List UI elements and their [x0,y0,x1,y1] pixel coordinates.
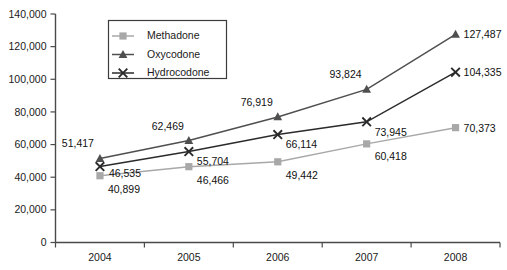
y-tick-label: 100,000 [9,73,47,85]
data-point-marker [362,85,371,93]
data-point-label: 40,899 [108,183,140,195]
data-point-label: 55,704 [197,155,229,167]
y-tick-label: 60,000 [14,138,46,150]
data-point-label: 62,469 [152,120,184,132]
y-tick-label: 120,000 [9,40,47,52]
x-axis-ticks: 20042005200620072008 [56,243,501,263]
data-point-marker [96,172,103,179]
data-point-marker [185,163,192,170]
data-point-label: 49,442 [286,169,318,181]
y-tick-label: 40,000 [14,171,46,183]
y-tick-label: 20,000 [14,203,46,215]
data-point-label: 51,417 [62,137,94,149]
x-tick-label: 2005 [177,251,201,263]
data-point-label: 46,535 [109,167,141,179]
x-tick-label: 2008 [444,251,468,263]
y-tick-label: 80,000 [14,106,46,118]
data-point-marker [452,124,459,131]
legend-label-hydrocodone: Hydrocodone [147,66,210,78]
legend-marker-methadone [119,32,126,39]
x-tick-label: 2004 [88,251,112,263]
data-point-marker [363,140,370,147]
x-tick-label: 2006 [266,251,290,263]
data-point-label: 46,466 [197,174,229,186]
y-tick-label: 0 [41,236,47,248]
legend-label-oxycodone: Oxycodone [147,48,200,60]
data-point-label: 60,418 [375,150,407,162]
line-chart: 020,00040,00060,00080,000100,000120,0001… [0,0,507,270]
data-point-label: 93,824 [330,68,362,80]
data-point-label: 70,373 [464,122,496,134]
x-tick-label: 2007 [355,251,379,263]
y-tick-label: 140,000 [9,8,47,20]
data-point-label: 66,114 [286,138,317,150]
data-point-label: 127,487 [464,28,502,40]
y-axis-ticks: 020,00040,00060,00080,000100,000120,0001… [9,8,56,249]
data-point-label: 73,945 [375,126,407,138]
data-point-marker [451,68,460,77]
data-point-label: 104,335 [464,66,502,78]
legend-label-methadone: Methadone [147,29,200,41]
data-point-label: 76,919 [241,96,273,108]
chart-legend: MethadoneOxycodoneHydrocodone [109,21,227,79]
data-point-marker [274,158,281,165]
data-point-marker [451,30,460,38]
